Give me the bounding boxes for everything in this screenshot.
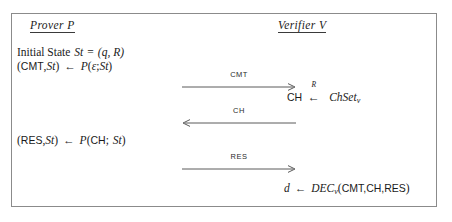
message-cmt-arrow-icon xyxy=(182,83,296,91)
message-ch-label: CH xyxy=(182,106,296,115)
initial-state-equals: = xyxy=(87,46,94,58)
decision-arg-commitment: CMT xyxy=(342,182,364,194)
response-output-state: St xyxy=(45,134,54,146)
commit-function: P xyxy=(81,60,88,72)
commit-output-message: CMT xyxy=(21,60,44,72)
response-function: P xyxy=(80,134,87,146)
message-cmt-label: CMT xyxy=(182,70,296,79)
prover-heading: Prover P xyxy=(30,19,75,33)
prover-response-step: (RES,St)←P(CH;St) xyxy=(17,133,126,148)
response-arg-close: ) xyxy=(122,134,126,146)
challenge-set: ChSet xyxy=(329,91,356,103)
decision-function: DEC xyxy=(311,182,334,194)
verifier-challenge-sampling: CHR←ChSetv xyxy=(287,90,360,108)
decision-arg-challenge: CH xyxy=(366,182,381,194)
message-ch-arrow-icon xyxy=(182,119,296,127)
message-res-label: RES xyxy=(182,152,296,161)
verifier-decision-step: d←DECv(CMT,CH,RES) xyxy=(284,181,410,199)
decision-arg-response: RES xyxy=(384,182,406,194)
commit-arg-close: ) xyxy=(108,60,112,72)
response-semicolon: ; xyxy=(106,134,109,146)
initial-state-variable: St xyxy=(74,46,83,58)
decision-arg-close: ) xyxy=(406,182,410,194)
response-input-state: St xyxy=(113,134,122,146)
initial-state-label: Initial State xyxy=(17,46,70,58)
message-cmt: CMT xyxy=(182,70,296,92)
message-ch: CH xyxy=(182,106,296,128)
commit-assign-arrow-icon: ← xyxy=(63,60,77,72)
random-sample-arrow-body: ← xyxy=(308,91,320,103)
initial-state-value: (q, R) xyxy=(98,46,124,58)
decision-assign-arrow-icon: ← xyxy=(294,182,308,194)
random-sample-arrow-label: R xyxy=(306,81,321,89)
commit-close-paren: ) xyxy=(55,60,59,72)
response-close-paren: ) xyxy=(54,134,58,146)
protocol-diagram: Prover P Verifier V Initial StateSt=(q, … xyxy=(0,0,452,222)
response-input-challenge: CH xyxy=(90,134,105,146)
message-res: RES xyxy=(182,152,296,174)
response-output-message: RES xyxy=(21,134,43,146)
prover-initial-state: Initial StateSt=(q, R) xyxy=(17,45,124,60)
challenge-variable: CH xyxy=(287,91,302,103)
random-sample-arrow-icon: R← xyxy=(306,90,321,105)
challenge-set-subscript: v xyxy=(357,96,361,105)
message-res-arrow-icon xyxy=(182,165,296,173)
verifier-heading: Verifier V xyxy=(278,19,326,33)
response-assign-arrow-icon: ← xyxy=(62,134,76,146)
commit-input-state: St xyxy=(99,60,108,72)
prover-commit-step: (CMT,St)←P(ε;St) xyxy=(17,59,112,74)
decision-output: d xyxy=(284,182,290,194)
